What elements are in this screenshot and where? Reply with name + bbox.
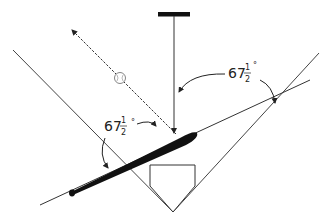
home-plate [150,165,195,212]
foul-line-left [13,50,173,212]
svg-text:°: ° [253,61,257,70]
angle-label-right: 67 1 2 ° [179,61,275,103]
svg-text:2: 2 [121,128,126,137]
svg-text:67: 67 [104,118,122,134]
baseball-icon [115,73,126,84]
svg-text:1: 1 [245,63,250,72]
pitcher-rubber [158,12,190,17]
svg-text:°: ° [131,118,135,127]
svg-text:2: 2 [245,75,250,84]
bunt-angle-diagram: 67 1 2 ° 67 1 2 ° [0,0,329,224]
svg-text:67: 67 [228,65,246,81]
svg-text:1: 1 [121,116,126,125]
